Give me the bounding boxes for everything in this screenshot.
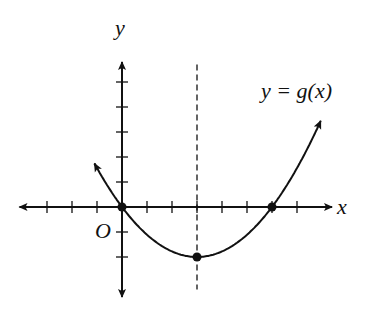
function-label: y = g(x)	[259, 78, 332, 103]
x-axis-label: x	[336, 194, 347, 219]
origin-label: O	[95, 218, 111, 243]
parabola-curve	[95, 121, 321, 257]
y-axis-label: y	[113, 15, 125, 40]
tick-marks	[47, 82, 297, 257]
graph: y x O y = g(x)	[0, 0, 377, 312]
